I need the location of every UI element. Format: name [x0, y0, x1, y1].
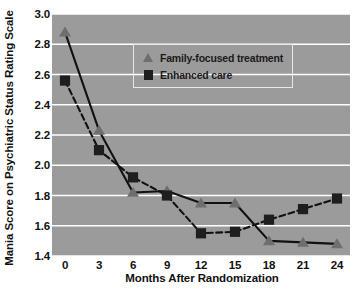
mania-score-line-chart: Mania Score on Psychiatric Status Rating… [0, 0, 363, 292]
y-tick-label: 1.6 [4, 220, 50, 232]
data-point-square [264, 215, 274, 225]
chart-legend: Family-focused treatment Enhanced care [133, 44, 293, 88]
series-line-1 [65, 81, 337, 234]
x-tick-label: 0 [50, 258, 80, 272]
data-point-square [60, 75, 70, 85]
x-tick-label: 12 [186, 258, 216, 272]
y-tick-label: 2.0 [4, 159, 50, 171]
x-tick-label: 3 [84, 258, 114, 272]
data-point-square [162, 190, 172, 200]
y-tick-label: 3.0 [4, 8, 50, 20]
legend-item-enhanced-care: Enhanced care [142, 67, 286, 82]
x-tick-label: 21 [288, 258, 318, 272]
x-tick-label: 9 [152, 258, 182, 272]
x-tick-label: 18 [254, 258, 284, 272]
data-point-triangle [93, 125, 105, 135]
y-tick-label: 2.8 [4, 38, 50, 50]
legend-item-family-focused-treatment: Family-focused treatment [142, 50, 286, 65]
triangle-marker-icon [142, 51, 155, 64]
legend-label: Enhanced care [160, 69, 232, 81]
y-tick-label: 2.6 [4, 69, 50, 81]
data-point-square [128, 172, 138, 182]
x-axis-title: Months After Randomization [52, 272, 352, 284]
y-tick-label: 1.8 [4, 190, 50, 202]
legend-label: Family-focused treatment [160, 52, 283, 64]
data-point-triangle [59, 27, 71, 37]
y-tick-label: 2.2 [4, 129, 50, 141]
data-point-square [230, 227, 240, 237]
data-point-square [298, 204, 308, 214]
data-point-square [332, 193, 342, 203]
x-tick-label: 15 [220, 258, 250, 272]
x-tick-label: 6 [118, 258, 148, 272]
square-marker-icon [142, 68, 155, 81]
y-axis-tick-labels: 1.41.61.82.02.22.42.62.83.0 [0, 0, 50, 292]
data-point-square [196, 228, 206, 238]
y-tick-label: 2.4 [4, 99, 50, 111]
x-tick-label: 24 [322, 258, 352, 272]
y-tick-label: 1.4 [4, 250, 50, 262]
data-point-square [94, 145, 104, 155]
